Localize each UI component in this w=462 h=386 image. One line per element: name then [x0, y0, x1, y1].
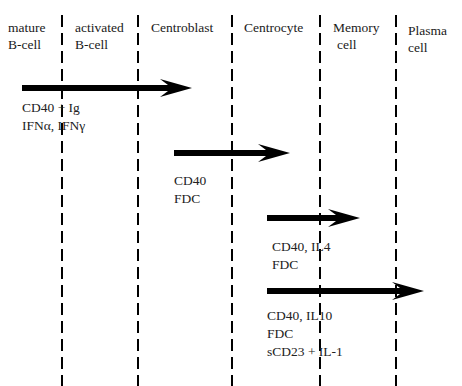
arrow-label-centroblast: CD40 FDC	[174, 172, 206, 208]
stage-boundary-lines	[62, 15, 396, 386]
stage-header-line: cell	[333, 36, 380, 53]
diagram-graphics	[0, 0, 462, 386]
stage-header-mature-b-cell: mature B-cell	[8, 19, 45, 53]
stage-header-activated-b-cell: activated B-cell	[75, 19, 124, 53]
stage-header-line: Centroblast	[151, 19, 213, 36]
signal-label: FDC	[267, 325, 343, 343]
arrow-icon	[267, 282, 424, 300]
stage-header-line: Memory	[333, 19, 380, 36]
signal-label: CD40, IL10	[267, 307, 343, 325]
signal-label: FDC	[174, 190, 206, 208]
stage-header-centrocyte: Centrocyte	[244, 19, 303, 36]
stage-header-memory-cell: Memory cell	[333, 19, 380, 53]
arrow-icon	[22, 79, 192, 97]
stage-header-line: activated	[75, 19, 124, 36]
stage-header-line: mature	[8, 19, 45, 36]
stage-header-plasma-cell: Plasma cell	[408, 22, 447, 56]
stage-header-centroblast: Centroblast	[151, 19, 213, 36]
signal-label: CD40, IL4	[272, 238, 331, 256]
b-cell-differentiation-diagram: mature B-cell activated B-cell Centrobla…	[0, 0, 462, 386]
stage-header-line: cell	[408, 39, 447, 56]
stage-header-line: Plasma	[408, 22, 447, 39]
stage-header-line: B-cell	[8, 36, 45, 53]
arrow-label-memory: CD40, IL4 FDC	[272, 238, 331, 274]
arrow-label-plasma: CD40, IL10 FDC sCD23 + IL-1	[267, 307, 343, 361]
signal-label: FDC	[272, 256, 331, 274]
signal-label: CD40	[174, 172, 206, 190]
signal-label: CD40 + Ig	[22, 99, 85, 117]
signal-label: IFNα, IFNγ	[22, 117, 85, 135]
signal-label: sCD23 + IL-1	[267, 343, 343, 361]
stage-header-line: B-cell	[75, 36, 124, 53]
arrow-label-activation: CD40 + Ig IFNα, IFNγ	[22, 99, 85, 135]
arrow-icon	[267, 209, 360, 227]
stage-header-line: Centrocyte	[244, 19, 303, 36]
